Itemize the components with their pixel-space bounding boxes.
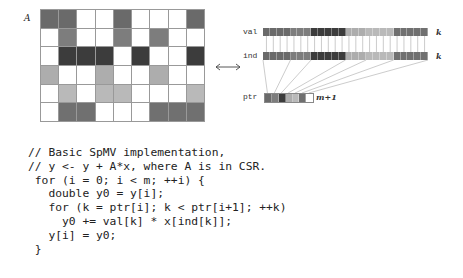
ind-entry (394, 52, 401, 60)
ind-entry (325, 52, 332, 60)
ind-entry (318, 52, 325, 60)
ind-entry (304, 52, 311, 60)
val-entry (373, 28, 380, 36)
val-entry (311, 28, 318, 36)
ind-entry (407, 52, 414, 60)
ind-entry (284, 52, 291, 60)
ptr-entry (299, 94, 306, 102)
val-entry (387, 28, 394, 36)
val-entry (352, 28, 359, 36)
ptr-entry (306, 94, 313, 102)
val-entry (394, 28, 401, 36)
val-entry (332, 28, 339, 36)
ind-entry (297, 52, 304, 60)
val-entry (277, 28, 284, 36)
val-length-label: k (436, 27, 442, 37)
code-line: // y <- y + A*x, where A is in CSR. (28, 160, 286, 174)
ind-entry (291, 52, 298, 60)
ptr-entry (265, 94, 272, 102)
ind-entry (366, 52, 373, 60)
ptr-entry (286, 94, 293, 102)
ptr-length-label: m+1 (316, 92, 337, 102)
code-line: double y0 = y[i]; (28, 187, 286, 201)
ind-entry (401, 52, 408, 60)
ind-entry (373, 52, 380, 60)
ind-entry (387, 52, 394, 60)
val-entry (401, 28, 408, 36)
val-entry (318, 28, 325, 36)
spmv-code-block: // Basic SpMV implementation,// y <- y +… (28, 146, 286, 256)
ind-entry (414, 52, 421, 60)
val-entry (380, 28, 387, 36)
val-array (263, 28, 428, 36)
ind-entry (332, 52, 339, 60)
code-line: y[i] = y0; (28, 229, 286, 243)
val-entry (325, 28, 332, 36)
val-entry (407, 28, 414, 36)
code-line: // Basic SpMV implementation, (28, 146, 286, 160)
code-line: for (k = ptr[i]; k < ptr[i+1]; ++k) (28, 201, 286, 215)
ptr-entry (272, 94, 279, 102)
val-entry (284, 28, 291, 36)
ind-entry (339, 52, 346, 60)
code-line: for (i = 0; i < m; ++i) { (28, 174, 286, 188)
ind-array (263, 52, 428, 60)
ind-entry (311, 52, 318, 60)
val-entry (297, 28, 304, 36)
ind-entry (352, 52, 359, 60)
ind-entry (277, 52, 284, 60)
val-entry (263, 28, 270, 36)
ind-entry (421, 52, 428, 60)
val-entry (291, 28, 298, 36)
ind-entry (346, 52, 353, 60)
val-entry (414, 28, 421, 36)
val-entry (366, 28, 373, 36)
val-entry (421, 28, 428, 36)
ind-entry (380, 52, 387, 60)
val-entry (270, 28, 277, 36)
ind-length-label: k (436, 51, 442, 61)
ind-array-label: ind (243, 51, 257, 60)
ptr-entry (279, 94, 286, 102)
val-entry (304, 28, 311, 36)
ind-entry (263, 52, 270, 60)
ind-entry (359, 52, 366, 60)
val-array-label: val (243, 27, 257, 36)
ptr-array (264, 93, 314, 103)
ptr-array-label: ptr (243, 92, 257, 101)
val-entry (346, 28, 353, 36)
ind-entry (270, 52, 277, 60)
code-line: } (28, 243, 286, 257)
ptr-entry (293, 94, 300, 102)
val-entry (359, 28, 366, 36)
code-line: y0 += val[k] * x[ind[k]]; (28, 215, 286, 229)
val-entry (339, 28, 346, 36)
